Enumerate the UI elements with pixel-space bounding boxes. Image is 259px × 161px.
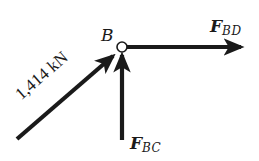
force-symbol: F bbox=[130, 133, 142, 153]
force-arrow-applied bbox=[17, 56, 113, 139]
free-body-diagram: B FBD FBC 1,414 kN bbox=[0, 0, 259, 161]
force-symbol: F bbox=[210, 16, 222, 36]
node-b-circle-icon bbox=[117, 42, 127, 52]
force-subscript: BD bbox=[222, 24, 241, 38]
force-subscript: BC bbox=[142, 141, 161, 155]
force-label-bc: FBC bbox=[130, 135, 161, 152]
node-label: B bbox=[101, 27, 114, 44]
force-label-bd: FBD bbox=[210, 18, 242, 35]
